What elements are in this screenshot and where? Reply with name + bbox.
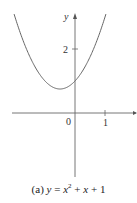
x-tick-label-1: 1 [103, 117, 108, 128]
function-plot: y 2 0 1 [0, 0, 137, 203]
y-tick-label-2: 2 [63, 44, 68, 55]
caption-tail: + 1 [88, 183, 105, 195]
caption-plus: + [72, 183, 84, 195]
parabola-curve [14, 14, 106, 89]
origin-label: 0 [66, 116, 71, 127]
caption-prefix: (a) [32, 183, 47, 195]
y-axis-arrow-icon [73, 13, 77, 19]
caption-equals: = [51, 183, 63, 195]
chart-caption: (a) y = x2 + x + 1 [0, 182, 137, 195]
y-axis-label: y [63, 11, 69, 22]
x-axis-arrow-icon [133, 111, 137, 115]
